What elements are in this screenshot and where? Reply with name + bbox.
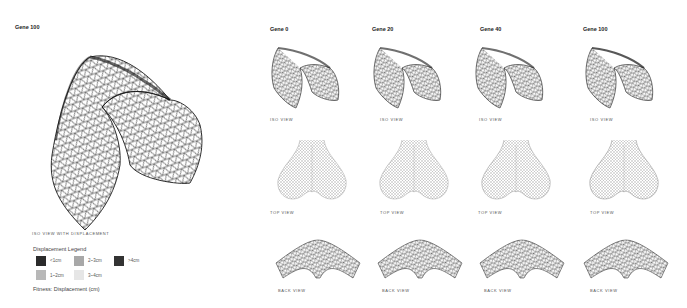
iso-caption-gene-100: ISO VIEW xyxy=(590,117,613,122)
legend-label-3-4cm: 3~4cm xyxy=(88,273,102,278)
iso-mesh-gene-0 xyxy=(268,40,348,110)
legend-label-gt4cm: >4cm xyxy=(128,258,139,263)
iso-mesh-gene-40 xyxy=(472,40,552,110)
back-mesh-gene-20 xyxy=(370,238,470,280)
main-iso-caption: ISO VIEW WITH DISPLACEMENT xyxy=(32,231,109,236)
top-mesh-gene-40 xyxy=(476,140,556,206)
main-iso-mesh xyxy=(30,45,230,235)
iso-mesh-gene-20 xyxy=(370,40,450,110)
legend-swatch-3-4cm xyxy=(74,270,84,280)
back-mesh-gene-100 xyxy=(576,238,676,280)
fitness-label: Fitness: Displacement (cm) xyxy=(33,286,100,292)
iso-mesh-gene-100 xyxy=(582,40,662,110)
legend-swatch-gt4cm xyxy=(114,256,124,266)
iso-caption-gene-40: ISO VIEW xyxy=(479,117,502,122)
legend-title: Displacement Legend xyxy=(33,246,86,252)
column-title-gene-40: Gene 40 xyxy=(480,26,501,32)
legend-label-lt1cm: <1cm xyxy=(50,258,61,263)
top-caption-gene-100: TOP VIEW xyxy=(590,210,614,215)
legend-label-1-2cm: 1~2cm xyxy=(50,273,64,278)
back-caption-gene-0: BACK VIEW xyxy=(278,288,306,293)
legend-swatch-1-2cm xyxy=(36,270,46,280)
legend-label-2-3cm: 2~3cm xyxy=(88,258,102,263)
column-title-gene-100: Gene 100 xyxy=(583,26,607,32)
iso-caption-gene-0: ISO VIEW xyxy=(270,117,293,122)
top-caption-gene-20: TOP VIEW xyxy=(380,210,404,215)
iso-caption-gene-20: ISO VIEW xyxy=(380,117,403,122)
top-caption-gene-0: TOP VIEW xyxy=(270,210,294,215)
back-caption-gene-100: BACK VIEW xyxy=(590,288,618,293)
legend-swatch-lt1cm xyxy=(36,256,46,266)
top-mesh-gene-0 xyxy=(272,140,352,206)
top-caption-gene-40: TOP VIEW xyxy=(478,210,502,215)
back-caption-gene-40: BACK VIEW xyxy=(484,288,512,293)
top-mesh-gene-20 xyxy=(374,140,454,206)
back-caption-gene-20: BACK VIEW xyxy=(382,288,410,293)
back-mesh-gene-40 xyxy=(472,238,572,280)
column-title-gene-0: Gene 0 xyxy=(270,26,288,32)
legend-swatch-2-3cm xyxy=(74,256,84,266)
column-title-gene-20: Gene 20 xyxy=(372,26,393,32)
back-mesh-gene-0 xyxy=(268,238,368,280)
main-panel-title: Gene 100 xyxy=(15,24,39,30)
top-mesh-gene-100 xyxy=(584,140,664,206)
